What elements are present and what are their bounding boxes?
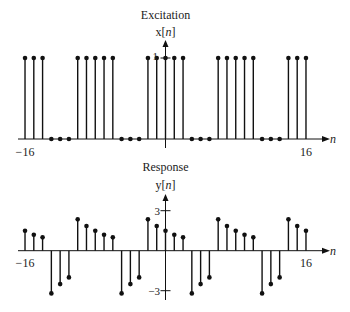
response-ytick-3: 3: [155, 205, 161, 217]
stem-marker: [304, 56, 309, 61]
stem-marker: [269, 137, 274, 142]
response-xtick-neg16: −16: [16, 256, 35, 270]
stem-marker: [32, 232, 37, 237]
stem-marker: [58, 282, 63, 287]
stem-marker: [172, 56, 177, 61]
stem-marker: [93, 56, 98, 61]
stem-marker: [190, 137, 195, 142]
stem-marker: [32, 56, 37, 61]
stem-marker: [286, 217, 291, 222]
stem-marker: [137, 137, 142, 142]
stem-marker: [40, 56, 45, 61]
stem-marker: [198, 282, 203, 287]
stem-plots: Excitation x[n] 1 −16 16 n Response y[n]…: [0, 0, 350, 312]
stem-marker: [128, 137, 133, 142]
stem-marker: [49, 291, 54, 296]
stem-marker: [154, 224, 159, 229]
stem-marker: [67, 275, 72, 280]
excitation-xtick-neg16: −16: [16, 145, 35, 159]
stem-marker: [304, 228, 309, 233]
stem-marker: [102, 232, 107, 237]
stem-marker: [128, 282, 133, 287]
stem-marker: [233, 56, 238, 61]
response-ytick-neg3: −3: [148, 285, 160, 297]
stem-marker: [111, 235, 116, 240]
stem-marker: [40, 235, 45, 240]
stem-marker: [242, 56, 247, 61]
stem-marker: [242, 232, 247, 237]
stem-marker: [286, 56, 291, 61]
excitation-ytick-1: 1: [153, 50, 159, 62]
stem-marker: [277, 275, 282, 280]
stem-marker: [251, 56, 256, 61]
stem-marker: [146, 56, 151, 61]
stem-marker: [277, 137, 282, 142]
stem-marker: [23, 56, 28, 61]
stem-marker: [137, 275, 142, 280]
response-xtick-16: 16: [300, 256, 312, 270]
stem-marker: [260, 137, 265, 142]
response-ylabel: y[n]: [156, 178, 176, 192]
excitation-plot: Excitation x[n] 1 −16 16 n: [16, 8, 336, 159]
response-title: Response: [143, 160, 189, 174]
stem-marker: [295, 56, 300, 61]
stem-marker: [172, 232, 177, 237]
stem-marker: [119, 137, 124, 142]
stem-marker: [207, 137, 212, 142]
stem-marker: [146, 217, 151, 222]
excitation-xtick-16: 16: [300, 145, 312, 159]
stem-marker: [163, 56, 168, 61]
stem-marker: [119, 291, 124, 296]
stem-marker: [75, 217, 80, 222]
stem-marker: [269, 282, 274, 287]
stem-marker: [93, 228, 98, 233]
excitation-stems: [23, 56, 309, 142]
stem-marker: [216, 217, 221, 222]
stem-marker: [58, 137, 63, 142]
stem-marker: [75, 56, 80, 61]
stem-marker: [190, 291, 195, 296]
response-xaxis-label: n: [330, 244, 336, 258]
stem-marker: [225, 56, 230, 61]
stem-marker: [225, 224, 230, 229]
stem-marker: [23, 228, 28, 233]
stem-marker: [84, 224, 89, 229]
stem-marker: [198, 137, 203, 142]
stem-marker: [181, 56, 186, 61]
stem-marker: [67, 137, 72, 142]
stem-marker: [181, 235, 186, 240]
stem-marker: [207, 275, 212, 280]
stem-marker: [111, 56, 116, 61]
stem-marker: [49, 137, 54, 142]
response-plot: Response y[n] 3 −3 −16 16 n: [16, 160, 336, 300]
excitation-xaxis-label: n: [330, 132, 336, 146]
stem-marker: [102, 56, 107, 61]
stem-marker: [233, 228, 238, 233]
stem-marker: [260, 291, 265, 296]
stem-marker: [84, 56, 89, 61]
excitation-ylabel: x[n]: [156, 25, 176, 39]
stem-marker: [216, 56, 221, 61]
stem-marker: [295, 224, 300, 229]
stem-marker: [251, 235, 256, 240]
excitation-title: Excitation: [141, 8, 190, 22]
stem-marker: [163, 228, 168, 233]
